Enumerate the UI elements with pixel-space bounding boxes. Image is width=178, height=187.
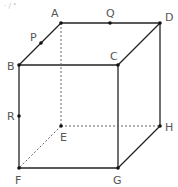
vertex-C-dot (116, 63, 120, 67)
label-E: E (60, 131, 67, 144)
vertex-D-dot (158, 21, 162, 25)
label-B: B (7, 60, 15, 73)
label-R: R (7, 110, 15, 123)
label-G: G (113, 174, 122, 187)
edge-CD (118, 23, 160, 65)
top-text-fragment: · ∕ ° (4, 2, 17, 10)
vertex-G-dot (116, 166, 120, 170)
edge-GH (118, 126, 160, 168)
label-Q: Q (106, 7, 115, 20)
point-P-dot (39, 41, 43, 45)
vertex-E-dot (59, 124, 63, 128)
label-D: D (165, 11, 173, 24)
vertex-A-dot (59, 21, 63, 25)
label-F: F (15, 174, 21, 187)
vertex-F-dot (17, 166, 21, 170)
vertex-H-dot (158, 124, 162, 128)
point-R-dot (17, 114, 21, 118)
label-A: A (51, 7, 59, 20)
vertex-B-dot (17, 63, 21, 67)
label-H: H (165, 121, 173, 134)
label-C: C (110, 50, 118, 63)
label-P: P (30, 31, 37, 44)
edge-EF (19, 126, 61, 168)
cube-diagram: · ∕ ° A B C D E F G H P (0, 0, 178, 187)
point-Q-dot (108, 21, 112, 25)
